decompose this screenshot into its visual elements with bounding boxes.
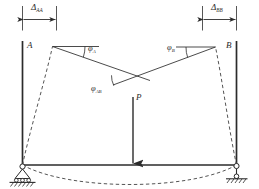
right-support-icon bbox=[226, 163, 248, 183]
node-label-a: A bbox=[27, 41, 33, 50]
angle-label-phi-ab: φAB bbox=[91, 84, 102, 93]
right-support-hatching bbox=[227, 179, 246, 183]
chord-line-right bbox=[113, 47, 216, 85]
load-label-p: P bbox=[136, 93, 142, 102]
portal-frame-deflection-figure: ΔAA ΔBB A B φA φB φAB P bbox=[0, 0, 259, 189]
left-support-icon bbox=[10, 164, 36, 187]
dimension-label-right: ΔBB bbox=[211, 3, 222, 12]
tangent-chord-lines bbox=[53, 47, 216, 86]
diagram-canvas bbox=[0, 0, 259, 189]
left-support-roller-1 bbox=[14, 178, 18, 182]
deformed-bottom-beam bbox=[23, 165, 237, 185]
node-label-b: B bbox=[226, 41, 232, 50]
chord-line-left bbox=[53, 47, 151, 81]
angle-arc-phi-a bbox=[83, 47, 85, 58]
deformed-left-column bbox=[23, 47, 53, 166]
angle-label-phi-a: φA bbox=[88, 44, 96, 53]
deformed-shape-group bbox=[23, 47, 237, 185]
left-support-triangle bbox=[15, 169, 30, 179]
undeformed-frame bbox=[23, 41, 237, 165]
right-support-pin-circle bbox=[234, 163, 239, 168]
angle-arc-phi-b bbox=[186, 47, 188, 58]
left-support-roller-2 bbox=[21, 178, 25, 182]
angle-arc-phi-ab bbox=[111, 75, 113, 85]
left-support-roller-3 bbox=[27, 178, 31, 182]
right-support-roller-circle bbox=[234, 174, 239, 179]
left-support-hatching bbox=[11, 182, 34, 186]
angle-label-phi-b: φB bbox=[167, 43, 175, 52]
dimension-label-left: ΔAA bbox=[31, 3, 42, 12]
deformed-right-column bbox=[216, 47, 237, 165]
